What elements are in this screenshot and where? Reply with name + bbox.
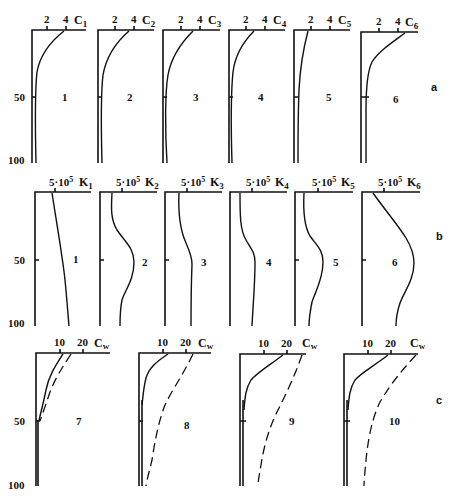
tick-4: 4 xyxy=(63,13,69,25)
axis-label-cw: Cw xyxy=(302,336,318,351)
tick-20: 20 xyxy=(180,336,192,348)
tick-10: 10 xyxy=(157,336,169,348)
panel-number: 2 xyxy=(127,91,133,103)
tick-4: 4 xyxy=(327,13,333,25)
tick-4: 4 xyxy=(262,13,268,25)
axis-label-k2: K2 xyxy=(145,175,159,191)
panel-number: 1 xyxy=(73,253,79,265)
panel-a6: 2 4 C6 6 xyxy=(361,15,419,163)
tick-20: 20 xyxy=(77,336,89,348)
y-tick-100: 100 xyxy=(8,479,25,491)
panel-c7: 10 20 Cw 7 xyxy=(36,336,110,486)
panel-c8: 10 20 Cw 8 xyxy=(139,336,214,486)
axis-label-k6: K6 xyxy=(407,175,421,191)
axis-label-k4: K4 xyxy=(275,175,289,191)
tick-4: 4 xyxy=(395,15,401,27)
panel-b6: 5·105 K6 6 xyxy=(362,175,421,326)
axis-label-c5: C5 xyxy=(338,13,352,29)
panel-number: 2 xyxy=(142,256,148,268)
row-c: 10 20 Cw 7 10 20 Cw 8 10 20 Cw xyxy=(8,336,442,491)
panel-c9: 10 20 Cw 9 xyxy=(240,336,318,486)
y-tick-100: 100 xyxy=(8,154,25,166)
tick-5e5: 5·105 xyxy=(49,175,73,188)
panel-number: 10 xyxy=(389,415,401,427)
tick-2: 2 xyxy=(308,13,314,25)
row-a: 2 4 C1 1 2 4 C2 2 2 4 C3 3 xyxy=(8,13,438,166)
tick-2: 2 xyxy=(243,13,249,25)
panel-a2: 2 4 C2 2 xyxy=(98,13,156,163)
y-tick-50: 50 xyxy=(14,415,26,427)
panel-c10: 10 20 Cw 10 xyxy=(344,336,426,486)
panel-b4: 5·105 K4 4 xyxy=(230,175,289,326)
panel-a3: 2 4 C3 3 xyxy=(163,13,222,163)
tick-2: 2 xyxy=(44,13,50,25)
y-tick-50: 50 xyxy=(14,254,26,266)
tick-5e5: 5·105 xyxy=(116,175,140,188)
axis-label-k5: K5 xyxy=(341,175,355,191)
panel-number: 4 xyxy=(258,91,264,103)
axis-label-c3: C3 xyxy=(208,13,222,29)
panel-number: 3 xyxy=(201,256,207,268)
axis-label-c6: C6 xyxy=(405,15,419,31)
tick-5e5: 5·105 xyxy=(246,175,270,188)
row-label-a: a xyxy=(431,81,438,93)
axis-label-k3: K3 xyxy=(210,175,224,191)
tick-2: 2 xyxy=(178,13,184,25)
panel-number: 6 xyxy=(392,256,398,268)
tick-20: 20 xyxy=(385,337,397,349)
tick-10: 10 xyxy=(258,337,270,349)
panel-a5: 2 4 C5 5 xyxy=(294,13,352,163)
panel-a4: 2 4 C4 4 xyxy=(229,13,287,163)
panel-number: 5 xyxy=(326,91,332,103)
tick-4: 4 xyxy=(197,13,203,25)
row-label-b: b xyxy=(436,230,443,242)
y-tick-50: 50 xyxy=(14,91,26,103)
panel-number: 7 xyxy=(76,415,82,427)
row-label-c: c xyxy=(436,394,442,406)
tick-4: 4 xyxy=(131,13,137,25)
panel-b5: 5·105 K5 5 xyxy=(295,175,355,326)
axis-label-c4: C4 xyxy=(273,13,287,29)
axis-label-c1: C1 xyxy=(74,13,88,29)
panel-a1: 2 4 C1 1 xyxy=(32,13,88,163)
row-b: 5·105 K1 1 5·105 K2 2 5·105 K3 3 5·105 xyxy=(8,175,443,329)
panel-number: 6 xyxy=(393,93,399,105)
panel-number: 3 xyxy=(193,91,199,103)
panel-number: 8 xyxy=(184,419,190,431)
tick-5e5: 5·105 xyxy=(378,175,402,188)
axis-label-cw: Cw xyxy=(198,336,214,351)
tick-10: 10 xyxy=(54,336,66,348)
tick-5e5: 5·105 xyxy=(312,175,336,188)
tick-20: 20 xyxy=(281,337,293,349)
axis-label-cw: Cw xyxy=(410,336,426,351)
tick-5e5: 5·105 xyxy=(181,175,205,188)
axis-label-k1: K1 xyxy=(79,175,93,191)
panel-number: 5 xyxy=(333,256,339,268)
panel-number: 4 xyxy=(266,256,272,268)
panel-b2: 5·105 K2 2 xyxy=(100,175,159,326)
tick-2: 2 xyxy=(112,13,118,25)
panel-b3: 5·105 K3 3 xyxy=(165,175,224,326)
axis-label-c2: C2 xyxy=(142,13,156,29)
y-tick-100: 100 xyxy=(8,317,25,329)
panel-b1: 5·105 K1 1 xyxy=(35,175,93,326)
panel-number: 1 xyxy=(62,91,68,103)
tick-10: 10 xyxy=(362,337,374,349)
panel-number: 9 xyxy=(289,415,295,427)
tick-2: 2 xyxy=(376,15,382,27)
depth-profile-figure: 2 4 C1 1 2 4 C2 2 2 4 C3 3 xyxy=(0,0,459,499)
axis-label-cw: Cw xyxy=(94,336,110,351)
